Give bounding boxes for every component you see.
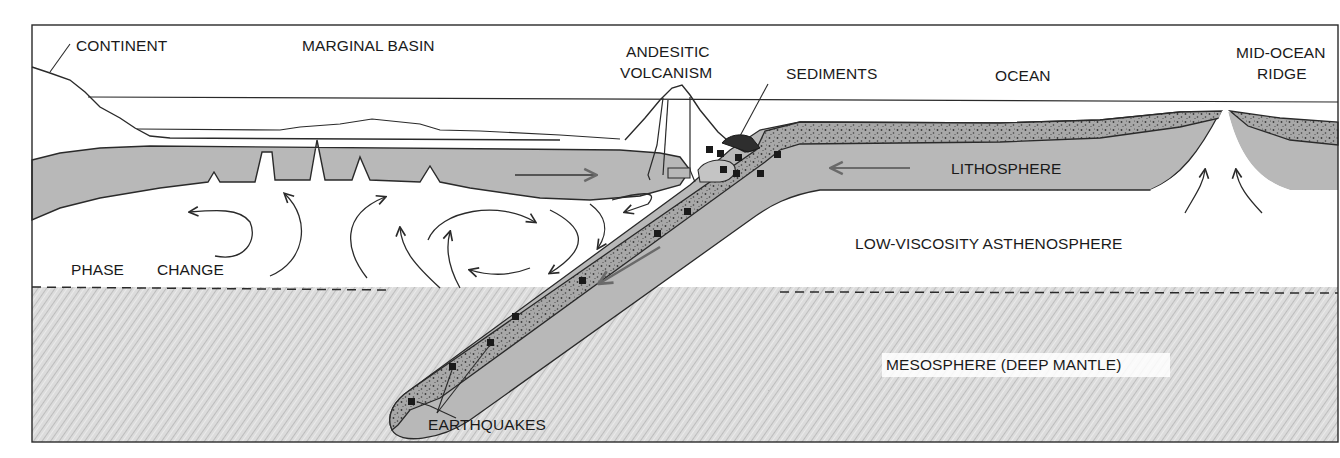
label-continent: CONTINENT <box>76 37 168 54</box>
continent-leader <box>50 44 70 72</box>
sediments-leader <box>740 84 768 136</box>
label-ridge: RIDGE <box>1257 65 1307 82</box>
marginal-basin-floor <box>137 119 620 139</box>
magma-chamber <box>668 168 690 178</box>
label-volcanism: VOLCANISM <box>620 64 712 81</box>
magma-conduit-3 <box>690 97 695 182</box>
label-phase: PHASE <box>71 261 124 278</box>
label-marginal-basin: MARGINAL BASIN <box>302 37 435 54</box>
label-andesitic: ANDESITIC <box>626 43 710 60</box>
label-earthquakes: EARTHQUAKES <box>428 416 546 433</box>
label-sediments: SEDIMENTS <box>786 65 877 82</box>
continent-profile <box>32 67 560 140</box>
label-mid-ocean: MID-OCEAN <box>1236 44 1326 61</box>
label-change: CHANGE <box>157 261 224 278</box>
marginal-basin-plate <box>32 140 690 220</box>
label-asthenosphere: LOW-VISCOSITY ASTHENOSPHERE <box>855 235 1122 252</box>
label-ocean: OCEAN <box>995 67 1051 84</box>
label-lithosphere: LITHOSPHERE <box>951 160 1062 177</box>
sea-level-line <box>88 97 1338 102</box>
melt-pocket <box>698 160 735 182</box>
label-mesosphere: MESOSPHERE (DEEP MANTLE) <box>886 356 1122 373</box>
subduction-diagram: CONTINENT MARGINAL BASIN ANDESITIC VOLCA… <box>0 0 1340 458</box>
